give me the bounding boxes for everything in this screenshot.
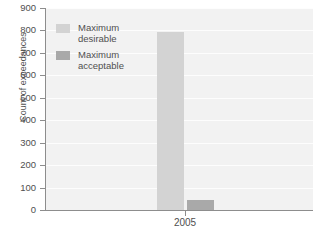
y-tick-mark [40, 98, 45, 99]
y-tick-mark [40, 165, 45, 166]
y-tick-label: 600 [0, 70, 36, 80]
legend-item-maximum-desirable: Maximum desirable [56, 22, 124, 44]
y-tick-label: 700 [0, 48, 36, 58]
chart-legend: Maximum desirable Maximum acceptable [56, 22, 124, 76]
chart-title-clipped [68, 0, 258, 2]
y-tick-mark [40, 30, 45, 31]
bar-maximum-acceptable [187, 200, 214, 210]
bar-chart: Count of exceedances Maximum desirable M… [0, 0, 315, 233]
y-tick-mark [40, 143, 45, 144]
legend-label-maximum-desirable: Maximum desirable [78, 22, 119, 44]
legend-label-line2: acceptable [78, 60, 124, 71]
x-axis-line [45, 210, 313, 211]
legend-swatch-maximum-desirable [56, 24, 70, 33]
y-tick-label: 500 [0, 93, 36, 103]
gridline [45, 8, 313, 9]
plot-area: Maximum desirable Maximum acceptable [45, 8, 313, 210]
y-tick-label: 400 [0, 115, 36, 125]
legend-item-maximum-acceptable: Maximum acceptable [56, 49, 124, 71]
y-tick-label: 800 [0, 25, 36, 35]
y-tick-mark [40, 75, 45, 76]
y-tick-mark [40, 120, 45, 121]
x-tick-label: 2005 [155, 218, 215, 228]
x-tick-mark [185, 211, 186, 216]
legend-label-maximum-acceptable: Maximum acceptable [78, 49, 124, 71]
y-tick-mark [40, 188, 45, 189]
y-tick-label: 0 [0, 205, 36, 215]
y-tick-label: 200 [0, 160, 36, 170]
legend-label-line1: Maximum [78, 49, 119, 60]
y-tick-mark [40, 53, 45, 54]
legend-label-line2: desirable [78, 33, 117, 44]
y-tick-mark [40, 8, 45, 9]
y-tick-label: 300 [0, 138, 36, 148]
bar-maximum-desirable [157, 32, 184, 210]
legend-swatch-maximum-acceptable [56, 51, 70, 60]
y-tick-mark [40, 210, 45, 211]
legend-label-line1: Maximum [78, 22, 119, 33]
y-tick-label: 100 [0, 183, 36, 193]
y-axis-line [45, 8, 46, 211]
y-tick-label: 900 [0, 3, 36, 13]
